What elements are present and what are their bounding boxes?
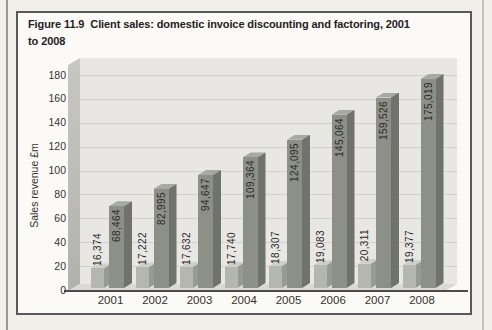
bar-label-invoice-discounting-2008: 175,019 [423, 82, 434, 121]
bar-label-invoice-discounting-2002: 82,995 [156, 192, 167, 225]
xtick-2008: 2008 [400, 294, 444, 306]
bar-invoice-discounting-2007-side-face [391, 93, 399, 289]
bar-label-factoring-2002: 17,222 [137, 232, 148, 265]
bar-label-factoring-2008: 19,377 [404, 230, 415, 263]
gridline-180 [80, 75, 457, 76]
bar-label-invoice-discounting-2006: 145,064 [334, 118, 345, 157]
ytick-20: 20 [30, 260, 66, 273]
bar-factoring-2003 [180, 267, 193, 288]
bar-label-invoice-discounting-2007: 159,526 [378, 101, 389, 140]
x-axis-line [64, 290, 468, 292]
bar-invoice-discounting-2008-side-face [436, 74, 444, 288]
scanned-book-page: Figure 11.9 Client sales: domestic invoi… [0, 0, 492, 330]
ytick-0: 0 [30, 284, 66, 297]
bar-factoring-2004 [225, 267, 238, 288]
xtick-2003: 2003 [178, 294, 222, 306]
ytick-60: 60 [30, 212, 66, 225]
wall-3d [68, 58, 80, 291]
xtick-2002: 2002 [133, 294, 177, 306]
bar-factoring-2005 [269, 266, 282, 288]
bar-invoice-discounting-2003-side-face [213, 170, 221, 288]
bar-label-factoring-2005: 18,307 [270, 231, 281, 264]
bar-label-invoice-discounting-2003: 94,647 [200, 178, 211, 211]
bar-chart: Sales revenue £m Factoring Invoice disco… [0, 0, 492, 330]
bar-factoring-2001 [91, 268, 104, 288]
bar-invoice-discounting-2002-side-face [169, 184, 177, 288]
bar-factoring-2006 [314, 265, 327, 288]
xtick-2005: 2005 [267, 294, 311, 306]
bar-factoring-2007 [358, 264, 371, 288]
bar-label-factoring-2006: 19,083 [315, 230, 326, 263]
ytick-160: 160 [30, 92, 66, 105]
bar-invoice-discounting-2004-side-face [258, 152, 266, 288]
ytick-80: 80 [30, 188, 66, 201]
gridline-60 [80, 218, 457, 219]
bar-invoice-discounting-2005-side-face [302, 135, 310, 288]
bar-factoring-2008 [403, 265, 416, 288]
bar-invoice-discounting-2006-side-face [347, 110, 355, 288]
gridline-140 [80, 123, 457, 124]
bar-label-factoring-2003: 17,632 [181, 232, 192, 265]
bar-label-factoring-2001: 16,374 [92, 233, 103, 266]
xtick-2006: 2006 [311, 294, 355, 306]
gridline-80 [80, 194, 457, 195]
bar-invoice-discounting-2001-side-face [124, 201, 132, 288]
xtick-2001: 2001 [89, 294, 133, 306]
ytick-100: 100 [30, 164, 66, 177]
bar-label-factoring-2004: 17,740 [226, 232, 237, 265]
ytick-40: 40 [30, 236, 66, 249]
bar-label-invoice-discounting-2004: 109,364 [245, 160, 256, 199]
bar-label-factoring-2007: 20,311 [359, 229, 370, 261]
ytick-140: 140 [30, 116, 66, 129]
bar-label-invoice-discounting-2001: 68,464 [111, 209, 122, 242]
gridline-100 [80, 171, 457, 172]
gridline-160 [80, 99, 457, 100]
gridline-120 [80, 147, 457, 148]
ytick-120: 120 [30, 140, 66, 153]
bar-label-invoice-discounting-2005: 124,095 [289, 143, 300, 182]
xtick-2004: 2004 [222, 294, 266, 306]
bar-factoring-2002 [136, 267, 149, 288]
xtick-2007: 2007 [356, 294, 400, 306]
ytick-180: 180 [30, 69, 66, 82]
